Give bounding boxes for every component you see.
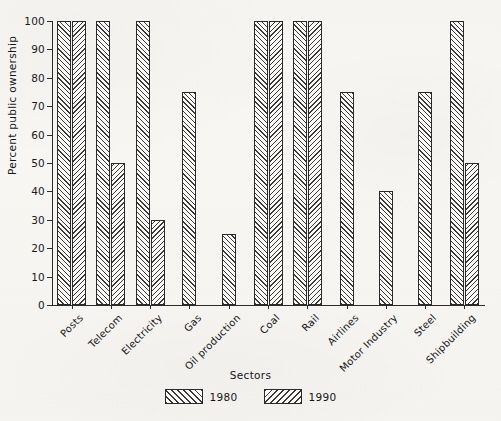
plot-area: 0102030405060708090100 PostsTelecomElect… bbox=[52, 21, 484, 305]
bar-1980-airlines bbox=[340, 92, 354, 305]
legend-label-1990: 1990 bbox=[309, 391, 337, 403]
bar-1980-steel bbox=[418, 92, 432, 305]
bar-1990-posts bbox=[72, 21, 86, 305]
bar-1980-motor-industry bbox=[379, 191, 393, 305]
x-tick-mark bbox=[150, 305, 151, 309]
x-tick-mark bbox=[189, 305, 190, 309]
chart-page: 0102030405060708090100 PostsTelecomElect… bbox=[0, 0, 501, 421]
bar-1980-rail bbox=[293, 21, 307, 305]
chart-legend: 19801990 bbox=[0, 389, 501, 404]
x-tick-mark bbox=[229, 305, 230, 309]
y-axis-title-text: Percent public ownership bbox=[6, 36, 18, 175]
y-tick-label: 90 bbox=[31, 43, 45, 55]
x-label-text: Airlines bbox=[325, 312, 360, 347]
x-tick-mark bbox=[307, 305, 308, 309]
x-tick-mark bbox=[268, 305, 269, 309]
bar-1990-electricity bbox=[151, 220, 165, 305]
y-tick-label: 50 bbox=[31, 157, 45, 169]
bar-1990-coal bbox=[269, 21, 283, 305]
x-label-text: Gas bbox=[181, 312, 203, 334]
x-tick-mark bbox=[347, 305, 348, 309]
bar-1980-gas bbox=[182, 92, 196, 305]
legend-item-1980[interactable]: 1980 bbox=[165, 389, 238, 404]
y-tick-mark bbox=[47, 220, 52, 221]
y-tick-mark bbox=[47, 248, 52, 249]
x-label-text: Posts bbox=[58, 312, 85, 339]
bar-1990-telecom bbox=[111, 163, 125, 305]
bar-1990-rail bbox=[308, 21, 322, 305]
y-tick-mark bbox=[47, 106, 52, 107]
y-tick-mark bbox=[47, 135, 52, 136]
x-label-text: Telecom bbox=[87, 312, 125, 350]
legend-label-1980: 1980 bbox=[210, 391, 238, 403]
x-label-text: Rail bbox=[300, 312, 322, 334]
y-tick-mark bbox=[47, 78, 52, 79]
bar-1980-shipbuilding bbox=[450, 21, 464, 305]
y-tick-label: 40 bbox=[31, 185, 45, 197]
y-tick-label: 60 bbox=[31, 129, 45, 141]
legend-swatch-1990 bbox=[264, 389, 302, 404]
bar-1980-coal bbox=[254, 21, 268, 305]
bar-1990-shipbuilding bbox=[465, 163, 479, 305]
legend-item-1990[interactable]: 1990 bbox=[264, 389, 337, 404]
x-axis-title: Sectors bbox=[0, 369, 501, 381]
x-label-text: Electricity bbox=[119, 312, 164, 357]
y-tick-mark bbox=[47, 21, 52, 22]
y-tick-mark bbox=[47, 277, 52, 278]
y-tick-label: 10 bbox=[31, 271, 45, 283]
y-tick-mark bbox=[47, 49, 52, 50]
y-tick-mark bbox=[47, 191, 52, 192]
bar-1980-telecom bbox=[96, 21, 110, 305]
x-tick-mark bbox=[464, 305, 465, 309]
y-axis-line bbox=[52, 21, 53, 306]
y-axis-title: Percent public ownership bbox=[18, 163, 19, 164]
x-tick-mark bbox=[72, 305, 73, 309]
y-tick-label: 70 bbox=[31, 100, 45, 112]
legend-swatch-1980 bbox=[165, 389, 203, 404]
x-label-text: Steel bbox=[412, 312, 439, 339]
x-tick-mark bbox=[425, 305, 426, 309]
y-tick-mark bbox=[47, 305, 52, 306]
y-tick-label: 30 bbox=[31, 214, 45, 226]
y-tick-label: 20 bbox=[31, 242, 45, 254]
bar-1980-electricity bbox=[136, 21, 150, 305]
y-tick-label: 0 bbox=[38, 299, 45, 311]
bar-1980-posts bbox=[57, 21, 71, 305]
y-tick-label: 80 bbox=[31, 72, 45, 84]
y-tick-label: 100 bbox=[24, 15, 45, 27]
x-label-text: Coal bbox=[258, 312, 282, 336]
x-tick-mark bbox=[111, 305, 112, 309]
bar-1980-oil-production bbox=[222, 234, 236, 305]
y-tick-mark bbox=[47, 163, 52, 164]
x-tick-mark bbox=[386, 305, 387, 309]
